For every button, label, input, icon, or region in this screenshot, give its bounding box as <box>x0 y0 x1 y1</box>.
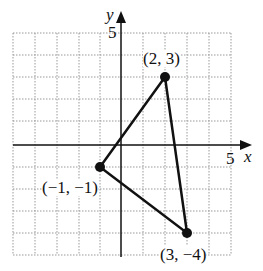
point-2-3 <box>160 72 170 82</box>
point-label-3-neg4: (3, −4) <box>160 246 206 263</box>
axes <box>13 17 248 257</box>
x-tick-label: 5 <box>226 150 235 167</box>
y-axis-arrow-icon <box>116 11 126 23</box>
point-label-2-3: (2, 3) <box>143 50 180 67</box>
point-label-neg1-neg1: (−1, −1) <box>42 179 98 196</box>
y-axis-label: y <box>106 6 114 23</box>
coordinate-plane <box>0 0 263 271</box>
x-axis-label: x <box>244 148 252 165</box>
grid <box>13 33 231 255</box>
y-tick-label: 5 <box>108 24 117 41</box>
point-3-neg4 <box>182 228 192 238</box>
point-neg1-neg1 <box>95 162 105 172</box>
